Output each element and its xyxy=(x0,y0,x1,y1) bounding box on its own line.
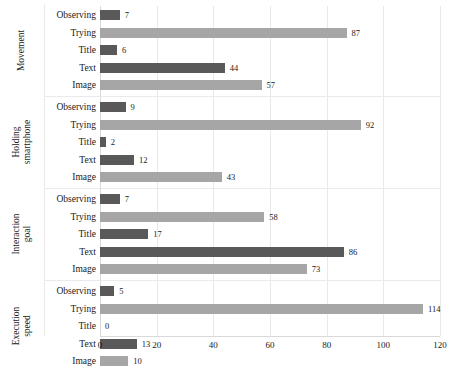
bar[interactable] xyxy=(100,247,344,257)
x-tick-label: 120 xyxy=(433,340,447,350)
bar-category-label: Text xyxy=(46,59,96,77)
bar-value-label: 73 xyxy=(312,264,321,274)
bar-row[interactable]: Title0 xyxy=(0,317,471,335)
bar-container: 86 xyxy=(100,243,357,261)
bar[interactable] xyxy=(100,356,128,366)
bar[interactable] xyxy=(100,194,120,204)
bar-category-label: Image xyxy=(46,76,96,94)
group-separator xyxy=(44,188,440,189)
bar-category-label: Trying xyxy=(46,300,96,318)
bar-category-label: Image xyxy=(46,260,96,278)
bar[interactable] xyxy=(100,172,222,182)
x-axis-line xyxy=(100,336,440,337)
bar-container: 6 xyxy=(100,41,126,59)
bar[interactable] xyxy=(100,137,106,147)
bar-container: 92 xyxy=(100,116,374,134)
bar[interactable] xyxy=(100,229,148,239)
bar-category-label: Image xyxy=(46,168,96,186)
bar-row[interactable]: Trying58 xyxy=(0,208,471,226)
bar[interactable] xyxy=(100,63,225,73)
bar-row[interactable]: Observing5 xyxy=(0,282,471,300)
bar[interactable] xyxy=(100,10,120,20)
bar-row[interactable]: Observing7 xyxy=(0,190,471,208)
bar-row[interactable]: Observing7 xyxy=(0,6,471,24)
bar-row[interactable]: Text12 xyxy=(0,151,471,169)
bar-container: 73 xyxy=(100,260,320,278)
bar-row[interactable]: Image73 xyxy=(0,260,471,278)
bar-category-label: Title xyxy=(46,225,96,243)
bar-category-label: Observing xyxy=(46,282,96,300)
bar-row[interactable]: Image57 xyxy=(0,76,471,94)
bar-category-label: Text xyxy=(46,243,96,261)
x-tick-label: 80 xyxy=(322,340,331,350)
bar-category-label: Observing xyxy=(46,6,96,24)
bar-row[interactable]: Trying92 xyxy=(0,116,471,134)
bar-row[interactable]: Image10 xyxy=(0,352,471,370)
bar-row[interactable]: Title2 xyxy=(0,133,471,151)
bar-row[interactable]: Title17 xyxy=(0,225,471,243)
bar[interactable] xyxy=(100,339,137,349)
bar-container: 43 xyxy=(100,168,235,186)
bar-value-label: 114 xyxy=(428,304,440,314)
bar-container: 87 xyxy=(100,24,360,42)
bar-row[interactable]: Trying87 xyxy=(0,24,471,42)
bar[interactable] xyxy=(100,155,134,165)
bar-container: 58 xyxy=(100,208,278,226)
bar-value-label: 6 xyxy=(122,45,126,55)
bar-value-label: 7 xyxy=(125,10,129,20)
bar-category-label: Observing xyxy=(46,98,96,116)
bar-container: 17 xyxy=(100,225,162,243)
bar-container: 7 xyxy=(100,6,129,24)
bar-value-label: 44 xyxy=(230,63,239,73)
bar-container: 2 xyxy=(100,133,115,151)
bar-value-label: 0 xyxy=(105,321,109,331)
bar[interactable] xyxy=(100,304,423,314)
x-tick-label: 20 xyxy=(152,340,161,350)
bar-value-label: 58 xyxy=(269,212,278,222)
bar-container: 57 xyxy=(100,76,275,94)
bar-container: 12 xyxy=(100,151,148,169)
bar-group: MovementObserving7Trying87Title6Text44Im… xyxy=(0,6,471,94)
bar[interactable] xyxy=(100,45,117,55)
bar-row[interactable]: Text44 xyxy=(0,59,471,77)
bar-category-label: Title xyxy=(46,317,96,335)
bar-value-label: 17 xyxy=(153,229,162,239)
bar-value-label: 7 xyxy=(125,194,129,204)
bar-value-label: 57 xyxy=(267,80,276,90)
bar-row[interactable]: Title6 xyxy=(0,41,471,59)
bar-value-label: 43 xyxy=(227,172,236,182)
bar[interactable] xyxy=(100,264,307,274)
bar-row[interactable]: Trying114 xyxy=(0,300,471,318)
bar[interactable] xyxy=(100,212,264,222)
bar-value-label: 10 xyxy=(133,356,142,366)
bar-container: 13 xyxy=(100,335,150,353)
bar-value-label: 13 xyxy=(142,339,151,349)
bar-category-label: Observing xyxy=(46,190,96,208)
bar-group: Holding smartphoneObserving9Trying92Titl… xyxy=(0,98,471,186)
bar-category-label: Image xyxy=(46,352,96,370)
bar-value-label: 92 xyxy=(366,120,375,130)
bar-group: Execution speedObserving5Trying114Title0… xyxy=(0,282,471,370)
group-separator xyxy=(44,280,440,281)
bar-container: 5 xyxy=(100,282,123,300)
bar-container: 114 xyxy=(100,300,440,318)
bar[interactable] xyxy=(100,102,126,112)
x-tick-label: 0 xyxy=(98,340,103,350)
bar-row[interactable]: Observing9 xyxy=(0,98,471,116)
bar-category-label: Trying xyxy=(46,24,96,42)
bar-row[interactable]: Text86 xyxy=(0,243,471,261)
bar-group: Interaction goalObserving7Trying58Title1… xyxy=(0,190,471,278)
bar-container: 10 xyxy=(100,352,142,370)
bar[interactable] xyxy=(100,28,347,38)
bar-category-label: Title xyxy=(46,41,96,59)
bar[interactable] xyxy=(100,120,361,130)
bar-category-label: Trying xyxy=(46,208,96,226)
x-tick-label: 60 xyxy=(266,340,275,350)
bar-value-label: 2 xyxy=(111,137,115,147)
bar-row[interactable]: Text13 xyxy=(0,335,471,353)
bar-container: 44 xyxy=(100,59,238,77)
bar-row[interactable]: Image43 xyxy=(0,168,471,186)
bar[interactable] xyxy=(100,286,114,296)
bar-category-label: Title xyxy=(46,133,96,151)
bar[interactable] xyxy=(100,80,262,90)
